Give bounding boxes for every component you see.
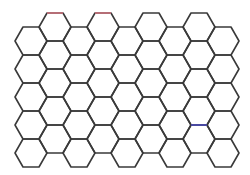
hex-grid-diagram [0,0,250,175]
